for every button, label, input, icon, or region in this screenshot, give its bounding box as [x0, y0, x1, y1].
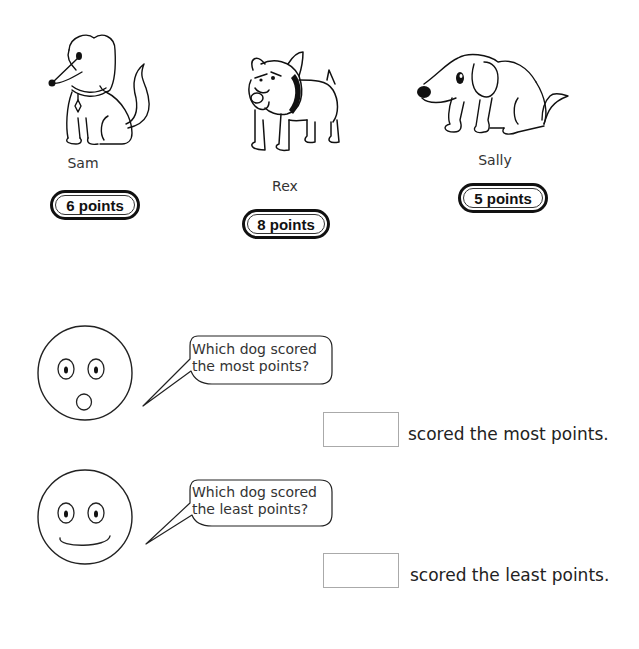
points-label-rex: 8 points: [247, 214, 325, 234]
points-badge-sam: 6 points: [50, 190, 140, 220]
surprised-face-icon: [36, 324, 136, 424]
answer-box-least[interactable]: [323, 553, 399, 588]
points-badge-sally: 5 points: [458, 183, 548, 213]
dog-sally-icon: [418, 48, 578, 148]
bubble-line-1: Which dog scored: [192, 484, 317, 501]
bubble-line-1: Which dog scored: [192, 341, 317, 358]
dog-name-rex: Rex: [260, 178, 310, 194]
answer-box-most[interactable]: [323, 412, 399, 447]
bubble-line-2: the least points?: [192, 501, 308, 518]
dog-name-sally: Sally: [465, 152, 525, 168]
answer-suffix-least: scored the least points.: [410, 565, 609, 585]
answer-suffix-most: scored the most points.: [408, 424, 609, 444]
bubble-line-2: the most points?: [192, 358, 309, 375]
dog-name-sam: Sam: [58, 155, 108, 171]
points-label-sam: 6 points: [55, 195, 135, 215]
points-badge-rex: 8 points: [242, 209, 330, 239]
dog-rex-icon: [243, 50, 343, 165]
points-label-sally: 5 points: [463, 188, 543, 208]
smiling-face-icon: [36, 468, 136, 568]
dog-sam-icon: [42, 28, 152, 148]
